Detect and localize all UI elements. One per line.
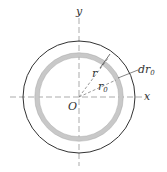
origin-label: O xyxy=(68,100,77,113)
r0-label: r0 xyxy=(98,80,108,94)
circular-section-diagram: y x O r r0 dr0 xyxy=(0,0,167,172)
y-axis-label: y xyxy=(75,5,83,18)
dr0-leader xyxy=(118,70,138,78)
dr0-label: dr0 xyxy=(138,63,155,77)
r-label: r xyxy=(92,67,98,80)
x-axis-label: x xyxy=(144,90,151,103)
